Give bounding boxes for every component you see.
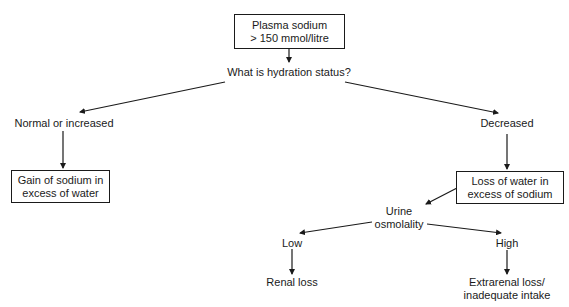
node-plasma-sodium: Plasma sodium > 150 mmol/litre [234,14,345,49]
edge-loss-urine [426,188,457,204]
node-extrarenal-line1: Extrarenal loss/ [464,276,551,289]
node-urine-line1: Urine [375,205,424,218]
node-urine-line2: osmolality [375,218,424,231]
node-low: Low [282,237,302,250]
edge-urine-low [300,222,372,233]
node-gain-line2: excess of water [22,187,98,200]
node-extrarenal-line2: inadequate intake [464,289,551,302]
node-high: High [496,237,519,250]
node-plasma-sodium-line2: > 150 mmol/litre [250,32,329,45]
node-gain-line1: Gain of sodium in [18,174,104,187]
node-loss-line2: excess of sodium [468,188,553,201]
node-extrarenal-loss: Extrarenal loss/ inadequate intake [464,276,551,302]
node-loss-of-water: Loss of water in excess of sodium [456,171,564,204]
node-decreased: Decreased [480,117,533,130]
edge-question-normal [80,82,225,112]
node-urine-osmolality: Urine osmolality [375,205,424,231]
hypernatremia-flowchart: Plasma sodium > 150 mmol/litre What is h… [0,0,569,307]
edge-question-decreased [345,82,498,113]
node-hydration-question: What is hydration status? [227,66,351,79]
edge-urine-high [427,224,501,233]
node-plasma-sodium-line1: Plasma sodium [252,19,327,32]
node-loss-line1: Loss of water in [471,175,548,188]
node-renal-loss: Renal loss [266,276,317,289]
node-gain-of-sodium: Gain of sodium in excess of water [11,170,110,203]
node-normal-or-increased: Normal or increased [14,117,113,130]
